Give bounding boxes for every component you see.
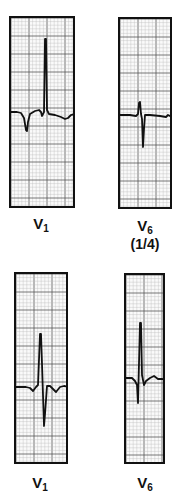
lead-letter: V [32, 474, 42, 491]
lead-label-v1-bottom: V1 [20, 475, 60, 493]
lead-letter: V [137, 474, 147, 491]
lead-letter: V [33, 215, 43, 232]
ecg-strip-v6-bottom [124, 273, 165, 464]
ecg-grid-and-trace [126, 275, 163, 462]
ecg-grid-and-trace [11, 18, 73, 206]
lead-number: 1 [43, 223, 49, 234]
lead-letter: V [137, 217, 147, 234]
lead-label-v6-top: V6 [125, 218, 165, 236]
ecg-strip-v1-top [9, 16, 75, 208]
lead-number: 1 [42, 482, 48, 493]
lead-number: 6 [147, 482, 153, 493]
lead-label-v6-bottom: V6 [125, 475, 165, 493]
ecg-grid-and-trace [120, 19, 170, 207]
ecg-strip-v6-top [118, 17, 172, 209]
ecg-grid-and-trace [16, 274, 66, 462]
ecg-trace [11, 39, 73, 131]
lead-label-v1-top: V1 [21, 216, 61, 234]
ecg-trace [126, 323, 163, 403]
lead-number: 6 [147, 225, 153, 236]
ecg-strip-v1-bottom [14, 272, 68, 464]
scale-note: (1/4) [118, 236, 172, 252]
